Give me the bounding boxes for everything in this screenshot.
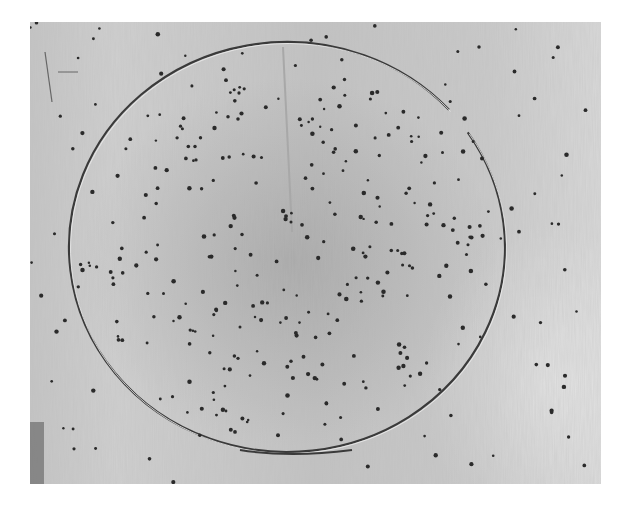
pit-dot bbox=[39, 294, 43, 298]
pit-dot bbox=[517, 230, 521, 234]
pit-dot bbox=[233, 354, 237, 358]
pit-dot bbox=[449, 414, 453, 418]
pit-dot bbox=[112, 282, 116, 286]
pit-dot bbox=[487, 210, 490, 213]
pit-dot bbox=[366, 465, 370, 469]
pit-dot bbox=[121, 271, 125, 275]
pit-dot bbox=[120, 247, 124, 251]
pit-dot bbox=[434, 453, 438, 457]
pit-dot bbox=[154, 202, 158, 206]
pit-dot bbox=[457, 343, 460, 346]
pit-dot bbox=[224, 78, 228, 82]
pit-dot bbox=[410, 135, 413, 138]
pit-dot bbox=[222, 67, 226, 71]
pit-dot bbox=[342, 169, 345, 172]
pit-dot bbox=[384, 112, 387, 115]
pit-dot bbox=[533, 97, 537, 101]
pit-dot bbox=[264, 105, 268, 109]
pit-dot bbox=[80, 268, 85, 273]
pit-dot bbox=[256, 274, 259, 277]
pit-dot bbox=[328, 331, 332, 335]
pit-dot bbox=[226, 115, 230, 119]
pit-dot bbox=[224, 385, 227, 388]
pit-dot bbox=[469, 235, 473, 239]
pit-dot bbox=[290, 212, 293, 215]
pit-dot bbox=[72, 447, 75, 450]
pit-dot bbox=[469, 462, 473, 466]
pit-dot bbox=[184, 157, 188, 161]
pit-dot bbox=[343, 78, 346, 81]
pit-dot bbox=[409, 375, 412, 378]
pit-dot bbox=[323, 108, 325, 110]
pit-dot bbox=[120, 338, 124, 342]
pit-dot bbox=[323, 423, 326, 426]
pit-dot bbox=[362, 191, 367, 196]
pit-dot bbox=[533, 192, 536, 195]
pit-dot bbox=[302, 355, 306, 359]
pit-dot bbox=[221, 156, 225, 160]
pit-dot bbox=[223, 301, 227, 305]
pit-dot bbox=[418, 372, 422, 376]
pit-dot bbox=[77, 285, 80, 288]
pit-dot bbox=[184, 303, 187, 306]
pit-dot bbox=[360, 300, 363, 303]
pit-dot bbox=[453, 217, 456, 220]
pit-dot bbox=[194, 330, 197, 333]
pit-dot bbox=[251, 304, 255, 308]
pit-dot bbox=[535, 363, 539, 367]
pit-dot bbox=[294, 64, 297, 67]
pit-dot bbox=[260, 300, 264, 304]
pit-dot bbox=[456, 241, 460, 245]
pit-dot bbox=[305, 235, 310, 240]
pit-dot bbox=[362, 218, 364, 220]
pit-dot bbox=[466, 243, 469, 246]
pit-dot bbox=[318, 98, 322, 102]
pit-dot bbox=[509, 206, 513, 211]
pit-dot bbox=[186, 145, 190, 149]
pit-dot bbox=[310, 163, 314, 167]
pit-dot bbox=[319, 126, 321, 128]
pit-dot bbox=[337, 292, 341, 296]
pit-dot bbox=[398, 351, 402, 355]
pit-dot bbox=[162, 292, 165, 295]
pit-dot bbox=[145, 251, 148, 254]
pit-dot bbox=[385, 270, 389, 274]
pit-dot bbox=[401, 110, 405, 114]
pit-dot bbox=[375, 90, 379, 94]
pit-dot bbox=[294, 331, 298, 335]
pit-dot bbox=[310, 187, 314, 191]
pit-dot bbox=[465, 253, 468, 256]
pit-dot bbox=[281, 209, 285, 213]
pit-dot bbox=[567, 435, 570, 438]
pit-dot bbox=[238, 86, 241, 89]
pit-dot bbox=[378, 205, 380, 207]
pit-dot bbox=[423, 435, 426, 438]
pit-dot bbox=[249, 374, 252, 377]
pit-dot bbox=[564, 152, 569, 157]
pit-dot bbox=[146, 114, 149, 117]
pit-dot bbox=[437, 274, 441, 278]
pit-dot bbox=[451, 228, 455, 232]
pit-dot bbox=[381, 295, 384, 298]
pit-dot bbox=[344, 297, 349, 302]
pit-dot bbox=[417, 136, 420, 139]
pit-dot bbox=[117, 335, 120, 338]
pit-dot bbox=[375, 196, 379, 200]
pit-dot bbox=[236, 357, 239, 360]
pit-dot bbox=[179, 125, 182, 128]
pit-dot bbox=[200, 187, 203, 190]
pit-dot bbox=[557, 222, 560, 225]
pit-dot bbox=[153, 166, 157, 170]
pit-dot bbox=[306, 372, 310, 376]
pit-dot bbox=[212, 179, 215, 182]
pit-dot bbox=[184, 54, 186, 56]
pit-dot bbox=[193, 145, 196, 148]
pit-dot bbox=[358, 215, 362, 219]
pit-dot bbox=[364, 386, 367, 389]
pit-dot bbox=[387, 133, 391, 137]
pit-dot bbox=[316, 256, 320, 260]
pit-dot bbox=[159, 72, 163, 76]
pit-dot bbox=[241, 52, 244, 55]
pit-dot bbox=[171, 480, 175, 484]
pit-dot bbox=[128, 137, 132, 141]
